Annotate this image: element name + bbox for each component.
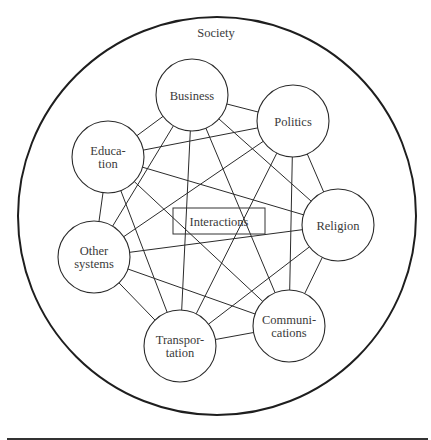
interactions-label: Interactions [189, 215, 248, 229]
node-education: Educa-tion [72, 121, 144, 193]
node-label: Communi- [262, 313, 316, 327]
node-transportation: Transpor-tation [144, 310, 216, 382]
edge-business-politics [227, 104, 258, 112]
node-label: Religion [316, 219, 360, 233]
node-communications: Communi-cations [253, 290, 325, 362]
node-label: tion [98, 157, 118, 171]
node-label: Politics [274, 115, 312, 129]
node-other-systems: Othersystems [58, 221, 130, 293]
node-label: tation [166, 346, 195, 360]
edge-politics-education [143, 128, 257, 150]
society-interactions-diagram: Society Interactions BusinessPoliticsEdu… [0, 0, 431, 440]
edge-business-other-systems [113, 126, 174, 226]
node-politics: Politics [257, 85, 329, 157]
edge-other-systems-transportation [119, 283, 155, 320]
edge-education-other-systems [99, 193, 103, 222]
edge-transportation-communications [215, 333, 253, 340]
edge-business-religion [219, 119, 311, 201]
edge-politics-religion [307, 154, 323, 192]
node-label: Educa- [90, 144, 125, 158]
edge-religion-other-systems [130, 230, 303, 253]
node-label: cations [271, 326, 307, 340]
society-label: Society [197, 26, 235, 40]
node-religion: Religion [302, 189, 374, 261]
node-label: Transpor- [156, 333, 205, 347]
node-label: Business [170, 89, 215, 103]
edge-education-communications [134, 182, 262, 302]
edge-religion-communications [305, 257, 323, 293]
edge-education-transportation [121, 191, 167, 313]
edge-business-education [137, 116, 163, 135]
node-label: Other [80, 244, 109, 258]
node-business: Business [156, 59, 228, 131]
edge-politics-communications [290, 157, 293, 290]
node-label: systems [74, 257, 114, 271]
edge-other-systems-communications [128, 269, 255, 314]
